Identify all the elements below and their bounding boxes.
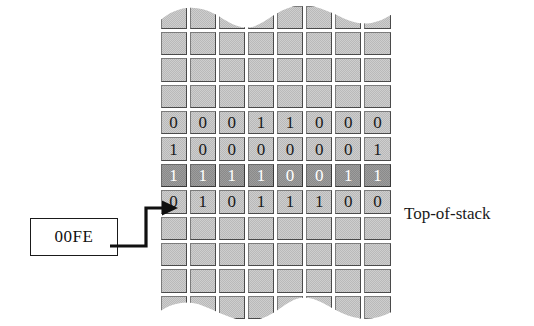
- memory-bit-value: 1: [169, 167, 178, 184]
- memory-cell: [276, 30, 305, 56]
- memory-bit-value: 0: [228, 114, 237, 131]
- memory-bit-value: 1: [198, 193, 207, 210]
- memory-bit-value: 0: [344, 114, 353, 131]
- memory-cell-inner: 1: [248, 164, 274, 187]
- memory-bit-value: 0: [315, 114, 324, 131]
- memory-cell-inner: [364, 58, 390, 81]
- memory-cell: [276, 294, 305, 320]
- memory-bit-value: 0: [198, 114, 207, 131]
- memory-cell: 0: [305, 110, 334, 136]
- memory-cell: [305, 242, 334, 268]
- memory-row-top-of-stack: 11110011: [159, 162, 392, 188]
- address-label-box[interactable]: 00FE: [30, 218, 118, 256]
- memory-cell: [334, 215, 363, 241]
- memory-cell: [159, 30, 188, 56]
- memory-cell: 1: [188, 189, 217, 215]
- memory-cell-inner: [248, 85, 274, 108]
- memory-cell-inner: [161, 32, 187, 55]
- memory-cell: 1: [363, 136, 392, 162]
- memory-cell: 0: [276, 162, 305, 188]
- memory-cell: 1: [159, 162, 188, 188]
- memory-cell-inner: [277, 296, 303, 319]
- memory-cell: [217, 4, 246, 30]
- memory-cell: [217, 83, 246, 109]
- memory-cell: 1: [305, 189, 334, 215]
- memory-cell: [217, 215, 246, 241]
- memory-bit-value: 1: [198, 167, 207, 184]
- memory-cell-inner: [335, 243, 361, 266]
- memory-cell-inner: 0: [306, 164, 332, 187]
- memory-cell-inner: 1: [335, 164, 361, 187]
- memory-cell-inner: 1: [364, 137, 390, 160]
- memory-cell: [188, 268, 217, 294]
- memory-row: [159, 294, 392, 320]
- memory-cell-inner: [306, 217, 332, 240]
- memory-cell: [217, 294, 246, 320]
- memory-cell: 0: [334, 110, 363, 136]
- memory-cell-inner: [190, 85, 216, 108]
- memory-cell-inner: 1: [306, 190, 332, 213]
- memory-cell-inner: [277, 269, 303, 292]
- memory-cell: 1: [188, 162, 217, 188]
- memory-cell: [188, 4, 217, 30]
- memory-cell-inner: [190, 269, 216, 292]
- memory-cell-inner: [161, 296, 187, 319]
- memory-cell-inner: [335, 269, 361, 292]
- memory-cell: [246, 4, 275, 30]
- memory-bit-value: 1: [169, 141, 178, 158]
- memory-cell-inner: 0: [335, 111, 361, 134]
- memory-cell-inner: [219, 58, 245, 81]
- memory-cell-inner: 1: [190, 190, 216, 213]
- memory-cell-inner: 0: [219, 137, 245, 160]
- memory-cell-inner: 0: [219, 190, 245, 213]
- memory-cell: [159, 57, 188, 83]
- memory-cell: [363, 57, 392, 83]
- memory-cell-inner: [277, 32, 303, 55]
- memory-cell: 0: [217, 136, 246, 162]
- memory-cell: [159, 83, 188, 109]
- memory-cell-inner: [248, 269, 274, 292]
- memory-row: 00011000: [159, 110, 392, 136]
- memory-row: [159, 4, 392, 30]
- memory-bit-value: 0: [228, 193, 237, 210]
- memory-cell-inner: [190, 32, 216, 55]
- memory-bit-value: 0: [198, 141, 207, 158]
- memory-cell-inner: 0: [190, 111, 216, 134]
- memory-cell-inner: [277, 58, 303, 81]
- memory-bit-value: 1: [286, 114, 295, 131]
- memory-cell: [305, 4, 334, 30]
- memory-cell: [305, 294, 334, 320]
- memory-cell: [276, 242, 305, 268]
- memory-cell-inner: [248, 58, 274, 81]
- memory-cell: [334, 30, 363, 56]
- memory-bit-value: 0: [344, 141, 353, 158]
- memory-bit-value: 1: [315, 193, 324, 210]
- memory-cell-inner: 0: [277, 164, 303, 187]
- arrow-right-icon: [162, 201, 178, 216]
- memory-cell: 0: [188, 110, 217, 136]
- memory-cell-inner: 1: [219, 164, 245, 187]
- memory-cell: 1: [276, 110, 305, 136]
- memory-cell: 0: [363, 110, 392, 136]
- memory-cell: [217, 242, 246, 268]
- memory-cell-inner: [335, 32, 361, 55]
- memory-cell-inner: [306, 296, 332, 319]
- memory-row: 01011100: [159, 189, 392, 215]
- memory-cell-inner: 0: [335, 137, 361, 160]
- memory-bit-value: 0: [344, 193, 353, 210]
- memory-cell: [188, 215, 217, 241]
- address-label-text: 00FE: [55, 227, 94, 247]
- memory-cell-inner: [335, 217, 361, 240]
- memory-cell: [246, 30, 275, 56]
- memory-cell-inner: [364, 217, 390, 240]
- memory-cell-inner: [277, 243, 303, 266]
- memory-cell-inner: 0: [364, 190, 390, 213]
- memory-cell: [246, 242, 275, 268]
- memory-cell-inner: [219, 6, 245, 29]
- top-of-stack-caption: Top-of-stack: [404, 204, 491, 224]
- memory-cell-inner: 1: [277, 111, 303, 134]
- memory-cell-inner: 0: [190, 137, 216, 160]
- memory-cell: 0: [246, 136, 275, 162]
- memory-bit-value: 0: [373, 193, 382, 210]
- memory-cell: [363, 215, 392, 241]
